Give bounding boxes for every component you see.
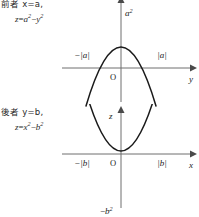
top-vertical-axis-arrow-icon	[118, 0, 125, 3]
former-exp-y: 2	[40, 13, 43, 19]
top-root-right-label: |a|	[157, 50, 166, 60]
former-equation: z=a2−y2	[15, 13, 43, 27]
latter-equation: z=x2−b2	[15, 121, 43, 135]
figure-page: 前者 x=a, z=a2−y2 後者 y=b, z=x2−b2 a2 −|a| …	[0, 0, 199, 217]
top-horizontal-axis-label: y	[188, 74, 193, 84]
latter-exp-b: 2	[40, 121, 43, 127]
latter-case-text: 後者 y=b, z=x2−b2	[1, 106, 43, 134]
graph-top-downward-parabola: a2 −|a| |a| O y	[60, 0, 199, 106]
bottom-vertical-axis-arrow-icon	[118, 106, 125, 113]
bottom-vertex-label: −b2	[100, 205, 113, 216]
top-root-left-label: −|a|	[74, 50, 90, 60]
bottom-vertical-axis-label: z	[108, 111, 113, 121]
top-horizontal-axis-arrow-icon	[190, 65, 197, 72]
former-condition-label: 前者 x=a,	[1, 0, 43, 9]
former-case-text: 前者 x=a, z=a2−y2	[1, 0, 43, 26]
bottom-root-right-label: |b|	[157, 158, 166, 168]
top-origin-label: O	[110, 72, 116, 82]
bottom-horizontal-axis-arrow-icon	[190, 151, 197, 158]
graph-bottom-upward-parabola: z −|b| |b| O x −b2	[60, 104, 199, 217]
bottom-root-left-label: −|b|	[74, 158, 90, 168]
top-vertex-label: a2	[125, 7, 133, 18]
bottom-origin-label: O	[110, 158, 116, 168]
latter-condition-label: 後者 y=b,	[1, 107, 43, 117]
bottom-horizontal-axis-label: x	[188, 160, 193, 170]
